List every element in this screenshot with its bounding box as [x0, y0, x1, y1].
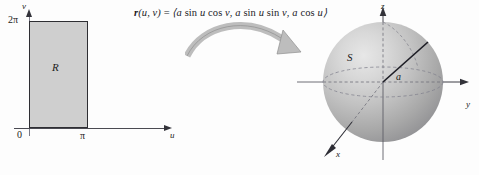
v-axis-arrowhead-icon	[26, 9, 32, 17]
u-axis-label: u	[170, 131, 175, 140]
origin-label-zero: 0	[17, 130, 22, 140]
parametric-surface-figure: R v u 2π π 0 r(u, v) = ⟨a sin u cos v, a…	[0, 0, 479, 175]
v-axis-tick-2pi: 2π	[8, 15, 18, 25]
surface-label-S: S	[347, 52, 353, 63]
sphere-axes-overlay	[280, 0, 479, 175]
u-axis-line	[14, 128, 166, 129]
radius-label-a: a	[396, 72, 401, 82]
z-axis-label: z	[381, 2, 385, 11]
u-axis-tick-pi: π	[80, 131, 85, 141]
x-axis-label: x	[336, 150, 340, 159]
uv-plane-panel: R v u 2π π 0	[0, 0, 200, 175]
sphere-panel: S a z y x	[280, 0, 479, 175]
domain-rectangle-R	[29, 21, 88, 128]
v-axis-label: v	[22, 2, 26, 11]
y-axis-label: y	[466, 100, 470, 109]
region-label-R: R	[52, 62, 59, 73]
